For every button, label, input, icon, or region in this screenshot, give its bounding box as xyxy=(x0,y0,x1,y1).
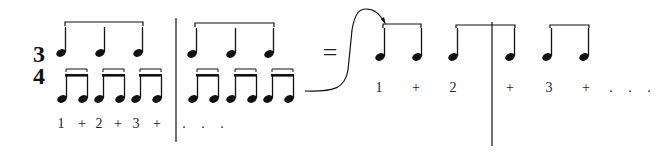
count-label: 1 xyxy=(58,117,65,131)
quarter-note xyxy=(55,27,67,58)
bracket xyxy=(195,23,274,27)
quarter-note xyxy=(504,28,516,62)
continuation-dots: . . . xyxy=(609,81,657,95)
quarter-note xyxy=(263,28,275,59)
continuation-dots: . . . xyxy=(182,117,230,131)
count-label: + xyxy=(412,81,420,95)
count-label: 1 xyxy=(376,81,383,95)
eighth-note-pair xyxy=(187,69,220,104)
quarter-note xyxy=(94,27,106,58)
bracket xyxy=(65,22,143,26)
count-label: 3 xyxy=(546,81,553,95)
equals-sign: = xyxy=(323,40,338,66)
bracket xyxy=(456,25,515,28)
count-label: + xyxy=(78,117,86,131)
quarter-note xyxy=(225,28,237,59)
eighth-note-pair xyxy=(56,69,89,104)
eighth-note-pair xyxy=(93,69,126,104)
quarter-note xyxy=(411,28,423,62)
count-label: 2 xyxy=(96,117,103,131)
count-label: + xyxy=(153,117,161,131)
eighth-note-pair xyxy=(130,69,163,104)
count-label: + xyxy=(582,81,590,95)
count-label: 3 xyxy=(133,117,140,131)
count-label: + xyxy=(506,81,514,95)
bracket xyxy=(383,24,421,28)
time-signature-bottom: 4 xyxy=(33,64,45,88)
eighth-note-pair xyxy=(262,69,295,104)
quarter-note xyxy=(541,28,553,62)
quarter-note xyxy=(578,28,590,62)
count-label: + xyxy=(114,117,122,131)
bracket xyxy=(550,25,589,28)
connector-arrow xyxy=(305,9,384,91)
quarter-note xyxy=(186,28,198,59)
quarter-note xyxy=(447,28,459,62)
eighth-note-pair xyxy=(225,69,258,104)
quarter-note xyxy=(374,28,386,62)
count-label: 2 xyxy=(450,81,457,95)
quarter-note xyxy=(132,27,144,58)
